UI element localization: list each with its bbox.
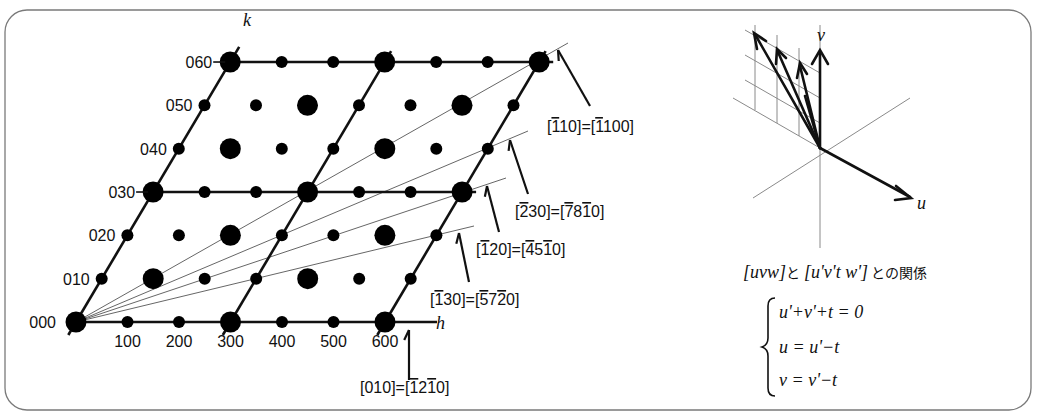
weak-reflection-spot — [353, 186, 365, 198]
h-tick-label: 400 — [269, 333, 296, 350]
strong-reflection-spot — [452, 95, 473, 116]
weak-reflection-spot — [250, 186, 262, 198]
k-tick-label: 060 — [185, 54, 212, 71]
direction-label-d130: [130]=[5720] — [430, 291, 519, 308]
weak-reflection-spot — [327, 143, 339, 155]
relation-caption: [uvw]と[u'v't w']との関係 — [743, 262, 927, 282]
strong-reflection-spot — [374, 225, 395, 246]
k-tick-label: 020 — [89, 227, 116, 244]
weak-reflection-spot — [405, 273, 417, 285]
v-axis-label: v — [817, 25, 825, 45]
weak-reflection-spot — [96, 273, 108, 285]
strong-reflection-spot — [220, 312, 241, 333]
pointer-arrow — [487, 186, 499, 232]
weak-reflection-spot — [353, 273, 365, 285]
equation-2: u = u'−t — [779, 337, 840, 357]
k-tick-label: 010 — [63, 271, 90, 288]
arrow-head — [485, 186, 487, 197]
strong-reflection-spot — [374, 52, 395, 73]
weak-reflection-spot — [173, 229, 185, 241]
strong-reflection-spot — [297, 268, 318, 289]
weak-reflection-spot — [482, 56, 494, 68]
weak-reflection-spot — [122, 316, 134, 328]
direction-label-d010: [010]=[1210] — [360, 379, 449, 396]
weak-reflection-spot — [199, 273, 211, 285]
direction-annotations: [110]=[1100][230]=[7810][120]=[4510][130… — [360, 50, 634, 396]
weak-reflection-spot — [276, 316, 288, 328]
weak-reflection-spot — [430, 143, 442, 155]
hex-vector-diagram: v u [uvw]と[u'v't w']との関係 u'+v'+t = 0 u =… — [733, 25, 927, 396]
strong-reflection-spot — [374, 138, 395, 159]
h-tick-label: 100 — [114, 333, 141, 350]
k-tick-label: 030 — [108, 184, 135, 201]
strong-reflection-spot — [297, 95, 318, 116]
weak-reflection-spot — [121, 229, 133, 241]
weak-reflection-spot — [173, 143, 185, 155]
k-tick-label: 000 — [29, 314, 56, 331]
weak-reflection-spot — [508, 99, 520, 111]
weak-reflection-spot — [353, 99, 365, 111]
strong-reflection-spot — [297, 182, 318, 203]
strong-reflection-spot — [143, 268, 164, 289]
equation-3: v = v'−t — [779, 370, 838, 390]
strong-reflection-spot — [220, 225, 241, 246]
weak-reflection-spot — [199, 186, 211, 198]
weak-reflection-spot — [327, 56, 339, 68]
k-tick-label: 040 — [140, 141, 167, 158]
h-tick-label: 200 — [166, 333, 193, 350]
weak-reflection-spot — [430, 56, 442, 68]
weak-reflection-spot — [405, 186, 417, 198]
pointer-arrow — [459, 233, 469, 282]
arrow-head — [509, 140, 510, 151]
weak-reflection-spot — [199, 99, 211, 111]
weak-reflection-spot — [482, 143, 494, 155]
strong-reflection-spot — [375, 312, 396, 333]
strong-reflection-spot — [529, 52, 550, 73]
weak-reflection-spot — [250, 273, 262, 285]
arrow-head — [558, 50, 559, 61]
h-axis-label: h — [436, 313, 445, 333]
hexagonal-index-diagram: 100200300400500600000010020030040050060 … — [0, 0, 1039, 417]
k-tick-label: 050 — [166, 97, 193, 114]
strong-reflection-spot — [66, 312, 87, 333]
pointer-arrow — [558, 50, 590, 106]
u-axis-label: u — [917, 193, 926, 213]
arrow-head — [456, 233, 459, 244]
pointer-arrow — [510, 140, 528, 194]
vector-grid — [733, 25, 910, 248]
weak-reflection-spot — [250, 99, 262, 111]
weak-reflection-spot — [276, 143, 288, 155]
h-tick-label: 500 — [320, 333, 347, 350]
strong-reflection-spot — [220, 138, 241, 159]
weak-reflection-spot — [276, 56, 288, 68]
equation-brace — [762, 298, 775, 396]
h-tick-label: 300 — [217, 333, 244, 350]
direction-label-d230: [230]=[7810] — [515, 203, 604, 220]
direction-label-d120: [120]=[4510] — [476, 241, 565, 258]
weak-reflection-spot — [430, 229, 442, 241]
weak-reflection-spot — [327, 229, 339, 241]
equation-1: u'+v'+t = 0 — [779, 302, 863, 322]
weak-reflection-spot — [405, 99, 417, 111]
weak-reflection-spot — [276, 229, 288, 241]
weak-reflection-spot — [328, 316, 340, 328]
weak-reflection-spot — [173, 316, 185, 328]
h-tick-label: 600 — [372, 333, 399, 350]
vector-arrows — [754, 33, 911, 200]
k-axis-label: k — [243, 10, 252, 30]
direction-label-d110: [110]=[1100] — [547, 118, 634, 135]
strong-reflection-spot — [452, 182, 473, 203]
